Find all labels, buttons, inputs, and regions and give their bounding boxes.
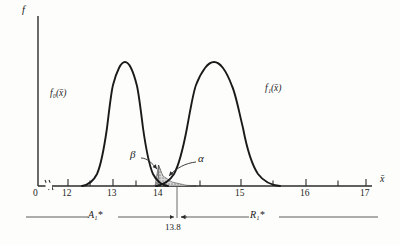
axis-break-icon [45, 180, 53, 190]
x-tick-marks [68, 179, 366, 186]
density-plot [0, 0, 400, 245]
curve-f1 [156, 62, 280, 186]
figure-root: f 0 12 13 14 15 16 17 x̄ f₀(x̄) f₁(x̄) β… [0, 0, 400, 245]
